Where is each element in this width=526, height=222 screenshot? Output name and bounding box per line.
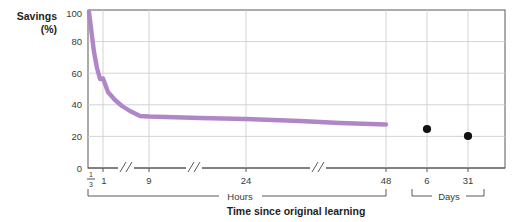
data-point-day-6: [423, 125, 431, 133]
days-group-label: Days: [438, 191, 460, 202]
plot-frame: [88, 10, 505, 168]
chart-svg: 100 80 60 40 20 0 Savings (%): [0, 0, 526, 222]
x-tick-hour-9: 9: [146, 175, 151, 186]
x-tick-hour-48: 48: [381, 175, 392, 186]
x-tick-one-third-denominator: 3: [89, 181, 93, 188]
x-tick-hour-24: 24: [241, 175, 252, 186]
y-tick-100: 100: [66, 8, 82, 19]
x-tick-one-third-numerator: 1: [89, 171, 93, 178]
x-tick-hour-1: 1: [101, 175, 106, 186]
y-tick-0: 0: [77, 163, 82, 174]
x-tick-day-31: 31: [463, 175, 474, 186]
y-axis-title-line1: Savings: [17, 10, 57, 22]
y-axis-title-line2: (%): [41, 23, 57, 35]
y-tick-40: 40: [71, 99, 82, 110]
y-tick-60: 60: [71, 68, 82, 79]
y-tick-80: 80: [71, 36, 82, 47]
hours-group-label: Hours: [227, 191, 253, 202]
x-axis-title: Time since original learning: [227, 205, 366, 217]
x-tick-day-6: 6: [424, 175, 429, 186]
data-point-day-31: [464, 132, 472, 140]
forgetting-curve-figure: 100 80 60 40 20 0 Savings (%): [0, 0, 526, 222]
y-tick-20: 20: [71, 131, 82, 142]
